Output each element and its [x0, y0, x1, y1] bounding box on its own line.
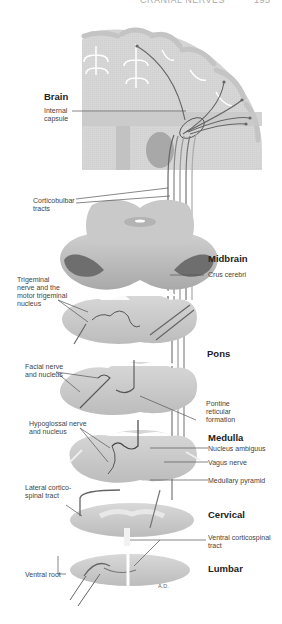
corticobulbar-tract-illustration	[0, 0, 282, 624]
label-medullary-pyramid: Medullary pyramid	[208, 477, 265, 485]
midbrain-section	[60, 200, 218, 290]
label-crus-cerebri: Crus cerebri	[208, 271, 246, 279]
label-ventral-corticospinal: Ventral corticospinal tract	[208, 534, 271, 550]
label-ventral-root: Ventral root	[25, 571, 61, 579]
lumbar-section	[70, 546, 190, 606]
brain-section	[82, 30, 262, 170]
cervical-section	[70, 490, 194, 546]
section-title-midbrain: Midbrain	[208, 253, 248, 264]
section-title-cervical: Cervical	[208, 509, 245, 520]
label-pontine-reticular: Pontine reticular formation	[206, 400, 235, 424]
label-vagus-nerve: Vagus nerve	[208, 459, 247, 467]
pons-lower-section	[60, 360, 197, 415]
figure-canvas: CRANIAL NERVES 195	[0, 0, 282, 624]
label-nucleus-ambiguus: Nucleus ambiguus	[208, 445, 266, 453]
label-lateral-corticospinal: Lateral cortico- spinal tract	[25, 484, 71, 500]
section-title-medulla: Medulla	[208, 432, 243, 443]
label-internal-capsule: Internal capsule	[44, 107, 68, 123]
label-trigeminal: Trigeminal nerve and the motor trigemina…	[17, 276, 67, 308]
section-title-brain: Brain	[44, 91, 68, 102]
label-facial: Facial nerve and nucleus	[25, 363, 63, 379]
pons-upper-section	[62, 290, 197, 345]
section-title-lumbar: Lumbar	[208, 563, 243, 574]
label-hypoglossal: Hypoglossal nerve and nucleus	[29, 420, 87, 436]
medulla-section	[70, 420, 200, 483]
section-title-pons: Pons	[207, 348, 230, 359]
artist-signature: A.D.	[158, 583, 169, 589]
label-corticobulbar-tracts: Corticobulbar tracts	[33, 197, 75, 213]
